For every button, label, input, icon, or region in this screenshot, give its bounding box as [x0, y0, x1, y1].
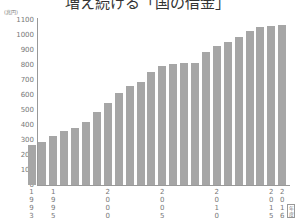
bar [180, 63, 188, 185]
bar [246, 31, 254, 185]
bar [224, 42, 232, 185]
bar [235, 37, 243, 185]
x-tick-label: 2005 [158, 188, 166, 220]
y-tick-label: 1100 [0, 16, 34, 24]
y-tick-label: 1000 [0, 31, 34, 39]
bar [147, 72, 155, 185]
bar [202, 52, 210, 185]
y-tick-label: 500 [0, 106, 34, 114]
bar [82, 122, 90, 185]
x-axis [37, 185, 290, 186]
x-tick-label: 2000 [104, 188, 112, 220]
bar [278, 25, 286, 185]
bar [126, 86, 134, 185]
y-unit-label: (兆円) [4, 8, 18, 15]
bar [49, 136, 57, 185]
y-tick-label: 400 [0, 121, 34, 129]
bar [169, 64, 177, 185]
bar [267, 26, 275, 185]
chart-title: 増え続ける「国の借金」 [0, 0, 295, 12]
x-tick-label: 2010 [213, 188, 221, 220]
bar [158, 66, 166, 185]
bar [71, 128, 79, 185]
bar [104, 103, 112, 185]
bar [137, 82, 145, 185]
x-tick-label: 2016 [278, 188, 286, 220]
bar [28, 145, 36, 185]
bar [93, 112, 101, 185]
y-tick-label: 700 [0, 76, 34, 84]
x-unit-label: 年度 [287, 204, 295, 218]
x-tick-label: 2015 [267, 188, 275, 220]
y-tick-label: 800 [0, 61, 34, 69]
x-tick-label: 1995 [49, 188, 57, 220]
y-tick-label: 600 [0, 91, 34, 99]
bar [115, 93, 123, 185]
y-tick-label: 300 [0, 136, 34, 144]
bar [213, 46, 221, 185]
bar [256, 27, 264, 185]
y-tick-label: 900 [0, 46, 34, 54]
bar [60, 131, 68, 185]
x-tick-label: 1993 [28, 188, 36, 220]
bar [191, 63, 199, 185]
bar [38, 142, 46, 185]
